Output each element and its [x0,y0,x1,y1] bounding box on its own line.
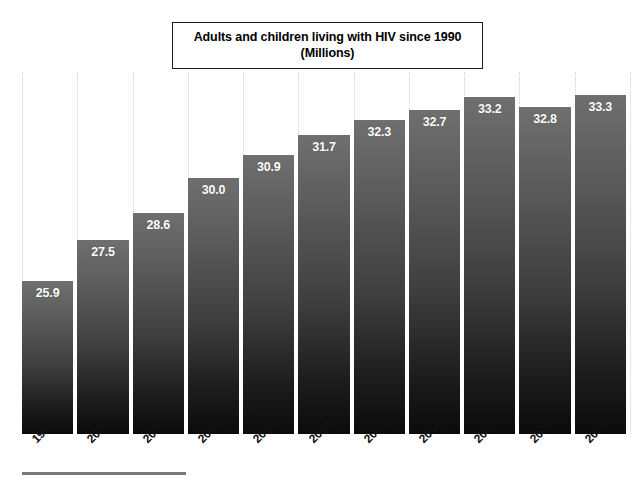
chart-title-box: Adults and children living with HIV sinc… [172,22,483,69]
bar-value-label-2005: 32.3 [354,125,405,139]
chart-title-line-2: (Millions) [181,45,474,61]
bar-2005[interactable]: 32.3 [354,120,405,434]
chart-title-line-1: Adults and children living with HIV sinc… [181,29,474,45]
bar-2001[interactable]: 28.6 [133,213,184,434]
bar-2000[interactable]: 27.5 [77,240,128,434]
bottom-rule [22,472,186,475]
bar-2007[interactable]: 33.2 [464,97,515,434]
gridline [630,72,631,434]
bar-2004[interactable]: 31.7 [298,135,349,434]
bar-value-label-1999: 25.9 [22,286,73,300]
bar-value-label-2002: 30.0 [188,183,239,197]
bar-2003[interactable]: 30.9 [243,155,294,434]
bar-2008[interactable]: 32.8 [519,107,570,434]
bar-1999[interactable]: 25.9 [22,281,73,434]
bar-2009[interactable]: 33.3 [575,95,626,434]
bar-2002[interactable]: 30.0 [188,178,239,434]
bar-value-label-2000: 27.5 [77,245,128,259]
bar-value-label-2003: 30.9 [243,160,294,174]
bars-group: 25.927.528.630.030.931.732.332.733.232.8… [22,72,630,434]
plot-area: 25.927.528.630.030.931.732.332.733.232.8… [22,72,630,434]
chart-container: Adults and children living with HIV sinc… [0,0,644,488]
bar-value-label-2001: 28.6 [133,218,184,232]
bar-2006[interactable]: 32.7 [409,110,460,434]
bar-value-label-2006: 32.7 [409,115,460,129]
bar-value-label-2009: 33.3 [575,100,626,114]
bar-value-label-2004: 31.7 [298,140,349,154]
bar-value-label-2007: 33.2 [464,102,515,116]
x-axis-labels: 1999200020012002200320042005200620072008… [22,436,630,484]
bar-value-label-2008: 32.8 [519,112,570,126]
